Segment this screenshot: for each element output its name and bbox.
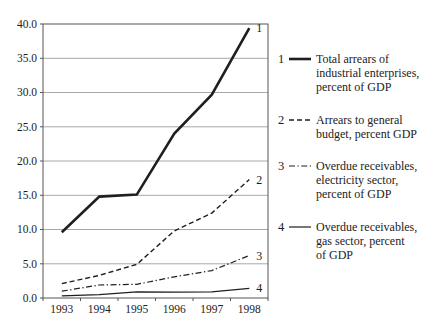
series-end-label-4: 4 — [256, 281, 262, 295]
legend-item-label: Arrears to general budget, percent GDP — [316, 113, 428, 141]
x-tick-label: 1995 — [125, 303, 148, 315]
legend-item-4: 4 Overdue receivables, gas sector, perce… — [278, 220, 428, 263]
legend-line-sample-solid-thick-icon — [287, 52, 312, 66]
x-tick-label: 1994 — [88, 303, 111, 315]
y-tick-label: 0.0 — [23, 292, 38, 304]
legend-item-label: Overdue receivables, gas sector, percent… — [316, 220, 428, 263]
legend-item-3: 3 Overdue receivables, electricity secto… — [278, 159, 428, 202]
figure: 0.05.010.015.020.025.030.035.040.0199319… — [0, 0, 428, 330]
legend: 1 Total arrears of industrial enterprise… — [278, 52, 428, 280]
legend-item-number: 1 — [278, 52, 287, 66]
y-tick-label: 5.0 — [23, 258, 38, 270]
legend-item-number: 3 — [278, 159, 287, 173]
x-tick-label: 1998 — [238, 303, 261, 315]
x-tick-label: 1993 — [50, 303, 73, 315]
x-tick-label: 1997 — [200, 303, 223, 315]
legend-line-sample-dashed-icon — [287, 113, 312, 127]
series-line-4 — [62, 288, 250, 296]
series-end-label-2: 2 — [256, 173, 262, 187]
x-axis-tick-labels: 199319941995199619971998 — [50, 303, 261, 315]
legend-item-label: Total arrears of industrial enterprises,… — [316, 52, 428, 95]
axis-ticks — [40, 24, 268, 301]
y-tick-label: 25.0 — [17, 121, 37, 133]
legend-item-2: 2 Arrears to general budget, percent GDP — [278, 113, 428, 141]
series-end-label-1: 1 — [256, 21, 262, 35]
y-tick-label: 40.0 — [17, 18, 37, 30]
y-tick-label: 35.0 — [17, 52, 37, 64]
y-tick-label: 10.0 — [17, 223, 37, 235]
y-tick-label: 30.0 — [17, 86, 37, 98]
y-gridlines — [43, 58, 268, 263]
y-tick-label: 20.0 — [17, 155, 37, 167]
legend-item-1: 1 Total arrears of industrial enterprise… — [278, 52, 428, 95]
series-line-3 — [62, 256, 250, 292]
legend-line-sample-solid-thin-icon — [287, 220, 312, 234]
legend-line-sample-dashdot-icon — [287, 159, 312, 173]
y-tick-label: 15.0 — [17, 189, 37, 201]
series-end-label-3: 3 — [256, 249, 262, 263]
legend-item-number: 4 — [278, 220, 287, 234]
x-tick-label: 1996 — [163, 303, 186, 315]
y-axis-tick-labels: 0.05.010.015.020.025.030.035.040.0 — [17, 18, 37, 304]
legend-item-label: Overdue receivables, electricity sector,… — [316, 159, 428, 202]
legend-item-number: 2 — [278, 113, 287, 127]
